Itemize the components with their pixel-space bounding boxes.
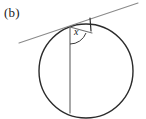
tangent-line: [19, 3, 138, 43]
circle: [39, 24, 133, 118]
geometry-figure: (b) x: [0, 0, 146, 119]
part-label: (b): [4, 5, 20, 20]
tick-mark: [90, 18, 91, 31]
angle-label: x: [74, 26, 78, 37]
figure-canvas: [0, 0, 146, 119]
